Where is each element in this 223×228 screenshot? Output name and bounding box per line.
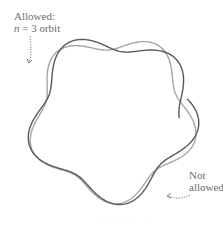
not-allowed-label: Not allowed	[189, 169, 223, 193]
caption-text: · · · · · · · · · · · · ·	[95, 221, 157, 226]
allowed-label: Allowed: n = 3 orbit	[14, 10, 60, 34]
allowed-label-line2: n = 3 orbit	[14, 22, 60, 34]
allowed-label-rest: = 3 orbit	[20, 22, 61, 34]
allowed-label-line1: Allowed:	[14, 10, 60, 22]
allowed-orbit-curve	[30, 42, 196, 204]
orbit-diagram	[0, 0, 223, 228]
not-allowed-label-line1: Not	[189, 169, 223, 181]
allowed-arrow-icon	[29, 36, 31, 62]
not-allowed-label-line2: allowed	[189, 181, 223, 193]
not-allowed-orbit-curve	[28, 39, 199, 204]
not-allowed-arrowhead-icon	[167, 193, 171, 198]
not-allowed-arrow-icon	[168, 195, 190, 198]
